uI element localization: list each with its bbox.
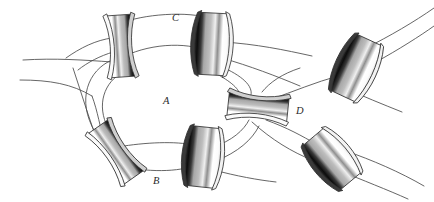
strand-tr-to-right-upper [223,42,312,56]
strand-d-to-right-bot-lower [252,122,312,160]
diagram-canvas [0,0,434,202]
bead-bottom-left [84,116,148,188]
bead-top-right [189,10,235,78]
bead-center-d [225,88,292,127]
strand-rt-exit-lower [376,26,434,62]
bead-group [84,10,389,196]
bead-top-left [103,12,140,80]
bead-body [88,119,145,185]
bead-far-right-bottom [296,122,368,197]
strand-tr-to-right-lower [222,58,300,86]
strand-d-up [262,68,300,92]
strand-bm-right-tail [214,170,276,182]
strand-left-in-upper [23,59,112,62]
bead-bottom-middle [179,123,228,191]
figure-container: A B C D [0,0,434,202]
strand-rt-exit-upper [366,8,434,48]
strand-a-left-inner [102,72,123,128]
